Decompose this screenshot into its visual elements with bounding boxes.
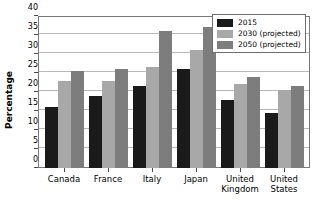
x-tick-mark: [284, 168, 285, 172]
bar: [45, 107, 58, 168]
x-axis-label: United States: [262, 174, 306, 200]
legend-label: 2030 (projected): [238, 29, 301, 38]
x-tick-mark: [152, 168, 153, 172]
y-axis: 0510152025303540: [0, 16, 38, 168]
legend-swatch: [217, 41, 233, 49]
x-axis-ticks: [38, 168, 310, 173]
x-axis-label: France: [86, 174, 130, 200]
bar: [89, 96, 102, 168]
bar: [159, 31, 172, 168]
legend-entry: 2050 (projected): [217, 40, 301, 49]
legend-swatch: [217, 30, 233, 38]
x-tick-cell: [130, 168, 174, 173]
bar: [58, 81, 71, 168]
y-tick-label: 35: [8, 23, 38, 31]
x-tick-cell: [86, 168, 130, 173]
legend-entry: 2015: [217, 18, 301, 27]
bar: [278, 90, 291, 168]
bar: [102, 81, 115, 168]
bar-group: [42, 16, 86, 168]
bar: [133, 86, 146, 168]
bar-group: [130, 16, 174, 168]
x-tick-cell: [218, 168, 262, 173]
y-tick-label: 30: [8, 42, 38, 50]
bar: [115, 69, 128, 168]
bar-group: [86, 16, 130, 168]
x-tick-cell: [42, 168, 86, 173]
bar: [177, 69, 190, 168]
x-tick-cell: [174, 168, 218, 173]
legend-label: 2015: [238, 18, 257, 27]
y-tick-label: 15: [8, 99, 38, 107]
y-tick-label: 10: [8, 118, 38, 126]
bar: [265, 113, 278, 168]
legend-entry: 2030 (projected): [217, 29, 301, 38]
bar: [71, 71, 84, 168]
y-tick-label: 20: [8, 80, 38, 88]
bar: [190, 50, 203, 168]
x-axis-label: United Kingdom: [218, 174, 262, 200]
legend-swatch: [217, 19, 233, 27]
x-axis-label: Japan: [174, 174, 218, 200]
x-axis-labels: CanadaFranceItalyJapanUnited KingdomUnit…: [38, 174, 310, 200]
x-tick-mark: [196, 168, 197, 172]
y-tick-label: 5: [8, 137, 38, 145]
x-axis-label: Italy: [130, 174, 174, 200]
y-tick-label: 40: [8, 4, 38, 12]
chart-legend: 20152030 (projected)2050 (projected): [212, 14, 306, 53]
bar: [247, 77, 260, 168]
bar: [234, 84, 247, 168]
legend-label: 2050 (projected): [238, 40, 301, 49]
bar: [146, 67, 159, 168]
bar: [221, 100, 234, 168]
bar-chart: Percentage 0510152025303540 CanadaFrance…: [0, 0, 320, 200]
y-tick-label: 25: [8, 61, 38, 69]
y-tick-label: 0: [8, 156, 38, 164]
bar: [291, 86, 304, 168]
x-tick-cell: [262, 168, 306, 173]
x-tick-mark: [64, 168, 65, 172]
x-axis-label: Canada: [42, 174, 86, 200]
x-tick-mark: [240, 168, 241, 172]
x-tick-mark: [108, 168, 109, 172]
